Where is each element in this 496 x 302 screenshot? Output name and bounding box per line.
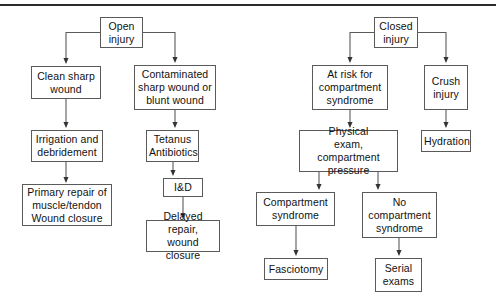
node-at-risk-compartment-label: At risk forcompartmentsyndrome [315,68,385,107]
node-delayed-repair[interactable]: Delayed repair,wound closure [146,220,220,252]
node-fasciotomy[interactable]: Fasciotomy [264,258,328,280]
node-irrigation-debridement[interactable]: Irrigation anddebridement [31,130,103,162]
node-incision-drainage[interactable]: I&D [163,178,203,197]
node-primary-repair[interactable]: Primary repair ofmuscle/tendonWound clos… [22,184,112,226]
node-open-injury-label: Openinjury [103,20,140,46]
node-fasciotomy-label: Fasciotomy [267,263,325,276]
edge-open-to-clean [66,33,100,62]
node-hydration[interactable]: Hydration [421,130,471,152]
node-tetanus-antibiotics[interactable]: TetanusAntibiotics [146,130,199,162]
node-incision-drainage-label: I&D [166,181,200,194]
edge-closed-to-crush [418,33,446,61]
node-primary-repair-label: Primary repair ofmuscle/tendonWound clos… [25,186,109,225]
node-compartment-syndrome-label: Compartmentsyndrome [259,196,332,222]
node-contaminated-wound[interactable]: Contaminatedsharp wound orblunt wound [134,65,216,110]
node-delayed-repair-label: Delayed repair,wound closure [149,210,217,262]
node-crush-injury[interactable]: Crushinjury [424,65,468,110]
node-hydration-label: Hydration [424,135,468,148]
node-no-compartment-syndrome-label: Nocompartmentsyndrome [365,196,434,235]
node-irrigation-debridement-label: Irrigation anddebridement [34,133,100,159]
node-no-compartment-syndrome[interactable]: Nocompartmentsyndrome [362,192,437,238]
edge-closed-to-atrisk [350,33,374,61]
node-clean-sharp-wound-label: Clean sharpwound [34,70,98,96]
node-open-injury[interactable]: Openinjury [100,17,143,48]
edge-open-to-contaminated [143,33,175,61]
node-crush-injury-label: Crushinjury [427,75,465,101]
node-closed-injury[interactable]: Closedinjury [374,17,418,48]
node-serial-exams[interactable]: Serialexams [375,258,422,292]
node-contaminated-wound-label: Contaminatedsharp wound orblunt wound [137,68,213,107]
node-clean-sharp-wound[interactable]: Clean sharpwound [31,66,101,99]
node-serial-exams-label: Serialexams [378,262,419,288]
node-compartment-syndrome[interactable]: Compartmentsyndrome [256,192,335,226]
node-physical-exam-label: Physicalexam, compartmentpressure [302,125,395,177]
node-tetanus-antibiotics-label: TetanusAntibiotics [149,133,196,159]
node-physical-exam[interactable]: Physicalexam, compartmentpressure [299,130,398,172]
node-closed-injury-label: Closedinjury [377,20,415,46]
flowchart-canvas: Openinjury Clean sharpwound Contaminated… [0,0,496,302]
top-border-rule [0,4,496,6]
node-at-risk-compartment[interactable]: At risk forcompartmentsyndrome [312,65,388,110]
